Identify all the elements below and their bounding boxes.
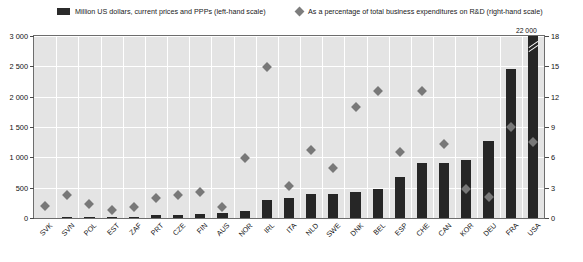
point-svn [62, 190, 72, 200]
point-est [107, 205, 117, 215]
gridline-horizontal [34, 127, 544, 128]
truncated-bar-value-label: 22 000 [516, 27, 537, 34]
y-axis-right-tick-label: 6 [551, 153, 579, 162]
bar-deu [483, 141, 493, 218]
gridline-vertical [211, 36, 212, 218]
y-axis-right-tick-mark [545, 188, 549, 189]
y-axis-left-tick-mark [30, 97, 34, 98]
point-zaf [129, 202, 139, 212]
point-svk [40, 201, 50, 211]
gridline-vertical [500, 36, 501, 218]
y-axis-left-tick-label: 2 500 [0, 62, 28, 71]
gridline-vertical [56, 36, 57, 218]
gridline-vertical [367, 36, 368, 218]
gridline-vertical [322, 36, 323, 218]
chart-legend: Million US dollars, current prices and P… [0, 0, 583, 28]
y-axis-left-tick-label: 1 500 [0, 123, 28, 132]
y-axis-left-tick-mark [30, 157, 34, 158]
y-axis-right-tick-label: 3 [551, 183, 579, 192]
bar-swe [328, 194, 338, 218]
legend-entry-bars: Million US dollars, current prices and P… [57, 7, 266, 16]
point-dnk [351, 102, 361, 112]
gridline-horizontal [34, 66, 544, 67]
plot-area [33, 35, 545, 219]
y-axis-left-tick-label: 500 [0, 183, 28, 192]
y-axis-left-tick-label: 2 000 [0, 92, 28, 101]
point-bel [373, 86, 383, 96]
y-axis-left-tick-label: 3 000 [0, 32, 28, 41]
bar-svn [62, 217, 72, 218]
point-pol [84, 199, 94, 209]
gridline-vertical [300, 36, 301, 218]
bar-nld [306, 194, 316, 218]
bar-fra [506, 69, 516, 218]
gridline-vertical [101, 36, 102, 218]
point-aus [218, 202, 228, 212]
y-axis-left-tick-label: 1 000 [0, 153, 28, 162]
legend-label-points: As a percentage of total business expend… [308, 7, 543, 16]
bar-prt [151, 215, 161, 218]
bar-fin [195, 214, 205, 218]
y-axis-right-tick-label: 9 [551, 123, 579, 132]
bar-cze [173, 215, 183, 218]
bar-can [439, 163, 449, 218]
bar-bel [373, 189, 383, 218]
y-axis-left-tick-label: 0 [0, 214, 28, 223]
legend-entry-points: As a percentage of total business expend… [296, 7, 543, 16]
point-che [417, 86, 427, 96]
gridline-vertical [167, 36, 168, 218]
gridline-horizontal [34, 157, 544, 158]
bar-irl [262, 200, 272, 218]
y-axis-right-tick-label: 18 [551, 32, 579, 41]
gridline-vertical [389, 36, 390, 218]
y-axis-left-tick-mark [30, 127, 34, 128]
gridline-vertical [78, 36, 79, 218]
y-axis-right-tick-mark [545, 157, 549, 158]
bar-usa [528, 36, 538, 218]
gridline-horizontal [34, 36, 544, 37]
gridline-vertical [278, 36, 279, 218]
point-irl [262, 62, 272, 72]
point-can [439, 139, 449, 149]
gridline-vertical [522, 36, 523, 218]
gridline-vertical [433, 36, 434, 218]
y-axis-left-tick-mark [30, 188, 34, 189]
point-nor [240, 153, 250, 163]
y-axis-left-tick-mark [30, 36, 34, 37]
y-axis-right-tick-label: 0 [551, 214, 579, 223]
gridline-vertical [477, 36, 478, 218]
bar-aus [217, 213, 227, 218]
point-swe [328, 164, 338, 174]
bar-dnk [350, 192, 360, 218]
bar-pol [84, 217, 94, 218]
gridline-vertical [411, 36, 412, 218]
bar-est [107, 217, 117, 218]
y-axis-right-tick-mark [545, 218, 549, 219]
y-axis-right-tick-mark [545, 66, 549, 67]
bar-che [417, 163, 427, 218]
gridline-vertical [234, 36, 235, 218]
point-prt [151, 193, 161, 203]
gridline-vertical [455, 36, 456, 218]
y-axis-right-tick-mark [545, 36, 549, 37]
filled-square-icon [57, 8, 70, 15]
bar-nor [240, 211, 250, 218]
y-axis-right-tick-mark [545, 127, 549, 128]
gridline-horizontal [34, 97, 544, 98]
point-esp [395, 147, 405, 157]
gridline-vertical [256, 36, 257, 218]
legend-label-bars: Million US dollars, current prices and P… [75, 7, 266, 16]
y-axis-right-tick-label: 12 [551, 92, 579, 101]
gridline-vertical [145, 36, 146, 218]
gridline-vertical [344, 36, 345, 218]
y-axis-right-tick-mark [545, 97, 549, 98]
diamond-icon [295, 7, 305, 17]
bar-ita [284, 198, 294, 218]
y-axis-left-tick-mark [30, 66, 34, 67]
plot-inner [34, 36, 544, 218]
point-ita [284, 181, 294, 191]
point-cze [173, 190, 183, 200]
bar-zaf [129, 217, 139, 218]
chart-figure: Million US dollars, current prices and P… [0, 0, 583, 262]
point-nld [306, 145, 316, 155]
